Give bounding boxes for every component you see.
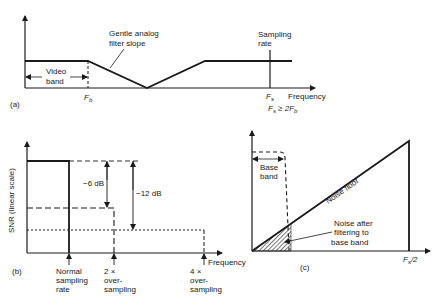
noise-after-pointer	[285, 232, 332, 242]
noise-after-label-1: Noise after	[334, 219, 373, 228]
fs-half-label: Fs/2	[403, 255, 418, 265]
panel-a: Video band Gentle analog filter slope Fb…	[10, 16, 326, 114]
panel-b: −6 dB −12 dB SNR (linear scale) Frequenc…	[7, 142, 246, 294]
noise-floor-label: Noise floor	[324, 176, 361, 205]
filter-slope-label-2: filter slope	[109, 39, 146, 48]
noise-after-label-2: filtering to	[334, 228, 369, 237]
fs-label: Fs	[266, 92, 274, 102]
minus-12db-label: −12 dB	[136, 189, 162, 198]
base-band-label-1: Base	[260, 163, 279, 172]
frequency-axis-label: Frequency	[288, 92, 326, 101]
panel-a-label: (a)	[10, 100, 20, 109]
video-band-label-1: Video	[46, 67, 67, 76]
base-band-label-2: band	[260, 172, 278, 181]
filter-slope-pointer	[110, 49, 124, 68]
sampling-rate-label-2: rate	[258, 39, 272, 48]
condition-label: Fs ≥ 2Fb	[268, 104, 298, 114]
tick-2x-label-2: over-	[104, 276, 123, 285]
tick-4x-label-1: 4 ×	[190, 267, 202, 276]
noise-after-label-3: base band	[331, 238, 368, 247]
y-axis-label: SNR (linear scale)	[7, 168, 16, 233]
diagram-canvas: Video band Gentle analog filter slope Fb…	[0, 0, 438, 305]
filter-slope-label-1: Gentle analog	[109, 29, 159, 38]
panel-c: Base band Noise floor Noise after filter…	[252, 131, 430, 272]
fb-label: Fb	[84, 93, 93, 103]
tick-4x-label-2: over-	[190, 276, 209, 285]
tick-4x-label-3: sampling	[190, 285, 222, 294]
sampling-rate-label-1: Sampling	[258, 30, 291, 39]
panel-c-label: (c)	[300, 263, 310, 272]
video-band-label-2: band	[46, 77, 64, 86]
frequency-axis-label: Frequency	[208, 258, 246, 267]
tick-2x-label-3: sampling	[104, 285, 136, 294]
tick-normal-label-1: Normal	[56, 267, 82, 276]
minus-6db-label: −6 dB	[83, 179, 104, 188]
tick-normal-label-3: rate	[56, 285, 70, 294]
tick-2x-label-1: 2 ×	[104, 267, 116, 276]
panel-b-label: (b)	[12, 267, 22, 276]
normal-sampling-snr	[27, 161, 69, 253]
tick-normal-label-2: sampling	[56, 276, 88, 285]
